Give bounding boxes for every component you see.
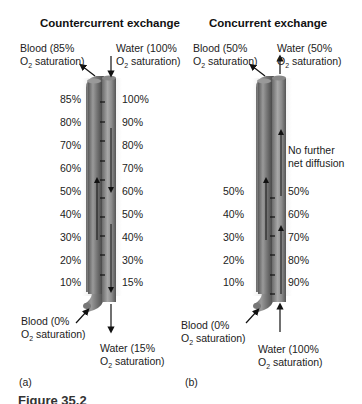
panel-b-letter: (b) [185,376,198,388]
panel-b-water-bottom-label: Water (100% O2 saturation) [258,343,323,370]
panel-b-title: Concurrent exchange [209,17,327,29]
figure-caption: Figure 35.2 [18,393,87,404]
panel-a-letter: (a) [19,376,32,388]
concurrent-tubes [252,76,292,313]
countercurrent-tubes [82,76,122,313]
panel-a-blood-top-label: Blood (85% O2 saturation) [20,42,85,69]
panel-b-blood-bottom-label: Blood (0% O2 saturation) [181,319,246,346]
panel-a-water-top-label: Water (100% O2 saturation) [116,42,181,69]
panel-a-water-bottom-label: Water (15% O2 saturation) [100,342,165,369]
panel-a-title: Countercurrent exchange [40,17,180,29]
no-further-diffusion-note: No further net diffusion [288,144,344,170]
panel-b-water-top-label: Water (50% O2 saturation) [277,42,342,69]
panel-b-blood-top-label: Blood (50% O2 saturation) [193,42,258,69]
panel-a-blood-bottom-label: Blood (0% O2 saturation) [21,315,86,342]
